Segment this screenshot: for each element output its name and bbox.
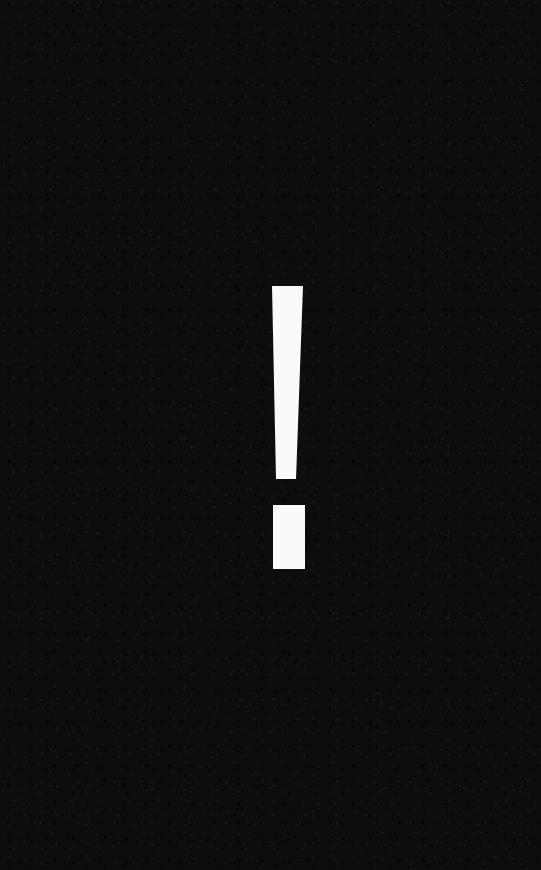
exclamation-mark-dot xyxy=(273,505,305,569)
image-canvas xyxy=(0,0,541,870)
exclamation-stroke-shape xyxy=(268,286,308,479)
exclamation-mark-stroke xyxy=(268,286,308,479)
